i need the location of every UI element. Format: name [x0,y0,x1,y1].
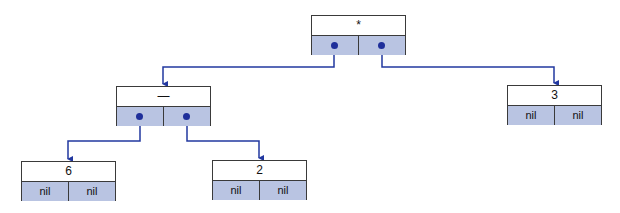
right-pointer-cell [359,36,405,55]
right-pointer-cell [164,107,210,126]
left-nil-cell: nil [508,106,555,125]
pointer-dot-icon [136,113,143,120]
right-nil-cell: nil [555,106,601,125]
right-nil-cell: nil [260,181,306,200]
left-pointer-cell [312,36,359,55]
tree-node-two: 2 nil nil [212,160,307,200]
tree-node-six: 6 nil nil [21,161,116,201]
right-nil-cell: nil [69,182,115,201]
left-nil-cell: nil [22,182,69,201]
pointer-dot-icon [331,42,338,49]
node-value: 3 [508,86,601,106]
edge-root-left [163,45,334,84]
tree-node-root: * [311,15,406,55]
pointer-dot-icon [378,42,385,49]
node-value: 2 [213,161,306,181]
left-pointer-cell [117,107,164,126]
left-nil-cell: nil [213,181,260,200]
node-value: 6 [22,162,115,182]
edge-root-right [382,45,554,83]
node-value: — [117,87,210,107]
tree-node-three: 3 nil nil [507,85,602,125]
node-value: * [312,16,405,36]
pointer-dot-icon [183,113,190,120]
tree-node-minus: — [116,86,211,126]
